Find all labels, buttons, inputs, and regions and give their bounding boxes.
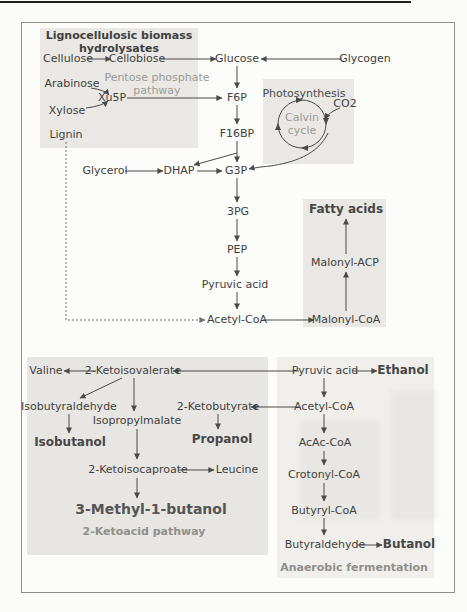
node-isobutyraldehyde: Isobutyraldehyde — [21, 401, 117, 414]
node-malonyl-coa: Malonyl-CoA — [312, 314, 380, 327]
node-xylose: Xylose — [49, 105, 85, 118]
node-crotonyl-coa: Crotonyl-CoA — [288, 469, 360, 482]
node-acetyl-coa-fermentation: Acetyl-CoA — [294, 401, 354, 414]
node-arabinose: Arabinose — [44, 78, 99, 91]
node-isopropylmalate: Isopropylmalate — [93, 415, 182, 428]
node-dhap: DHAP — [164, 165, 195, 178]
node-xu5p: Xu5P — [98, 92, 126, 105]
figure-page: Lignocellulosic biomass hydrolysates Cel… — [0, 0, 467, 612]
node-lignin: Lignin — [49, 129, 82, 142]
node-2-ketoisovalerate: 2-Ketoisovalerate — [85, 365, 181, 378]
node-acac-coa: AcAc-CoA — [299, 437, 352, 450]
node-glycogen: Glycogen — [339, 53, 391, 66]
node-acetyl-coa: Acetyl-CoA — [207, 314, 267, 327]
node-cellulose: Cellulose — [43, 53, 93, 66]
fatty-acids-title: Fatty acids — [309, 203, 383, 217]
node-butanol: Butanol — [383, 538, 435, 552]
node-3-methyl-1-butanol: 3-Methyl-1-butanol — [75, 501, 226, 517]
anaerobic-fermentation-label: Anaerobic fermentation — [280, 562, 428, 575]
node-f16bp: F16BP — [220, 128, 255, 141]
node-co2: CO2 — [333, 98, 356, 111]
node-valine: Valine — [29, 365, 62, 378]
node-3pg: 3PG — [227, 206, 249, 219]
node-ethanol: Ethanol — [377, 364, 428, 378]
node-f6p: F6P — [227, 92, 247, 105]
ketoacid-pathway-label: 2-Ketoacid pathway — [82, 526, 205, 539]
node-pyruvic-acid: Pyruvic acid — [202, 279, 269, 292]
node-butyryl-coa: Butyryl-CoA — [291, 505, 356, 518]
node-malonyl-acp: Malonyl-ACP — [311, 257, 379, 270]
node-2-ketoisocaproate: 2-Ketoisocaproate — [88, 464, 188, 477]
node-2-ketobutyrate: 2-Ketobutyrate — [177, 401, 260, 414]
node-pep: PEP — [227, 244, 247, 257]
node-cellobiose: Cellobiose — [109, 53, 166, 66]
node-glycerol: Glycerol — [83, 165, 128, 178]
node-g3p: G3P — [225, 165, 247, 178]
node-butyraldehyde: Butyraldehyde — [285, 539, 366, 552]
node-propanol: Propanol — [192, 433, 253, 447]
node-leucine: Leucine — [216, 464, 259, 477]
node-glucose: Glucose — [215, 53, 259, 66]
node-isobutanol: Isobutanol — [34, 436, 106, 450]
node-pyruvic-acid-fermentation: Pyruvic acid — [292, 365, 359, 378]
calvin-cycle-label: Calvin cycle — [285, 112, 319, 137]
